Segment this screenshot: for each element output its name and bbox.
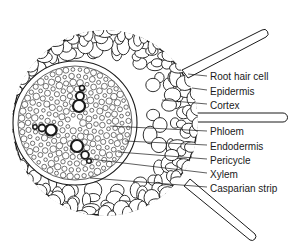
root-cross-section-diagram: Root hair cell Epidermis Cortex Phloem E… [0,0,298,245]
label-root-hair-cell: Root hair cell [210,71,268,82]
root-section-drawing [0,0,298,245]
label-pericycle: Pericycle [210,155,251,166]
label-xylem: Xylem [210,169,238,180]
label-casparian-strip: Casparian strip [210,183,277,194]
label-cortex: Cortex [210,100,239,111]
label-epidermis: Epidermis [210,86,254,97]
label-phloem: Phloem [210,126,244,137]
label-endodermis: Endodermis [210,141,263,152]
